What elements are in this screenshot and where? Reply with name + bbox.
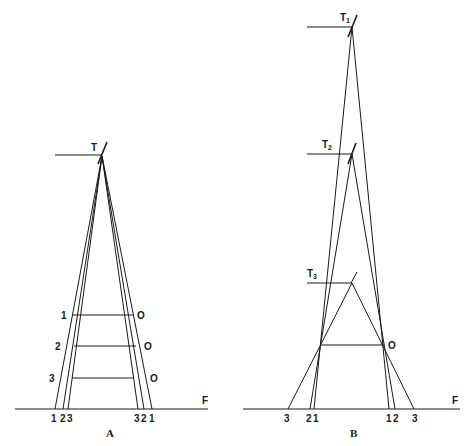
right-label-a-2: O	[144, 341, 152, 352]
ray-b-t1-right	[352, 27, 389, 409]
ground-left-b-1: 1	[313, 413, 319, 424]
ground-right-a-1: 1	[149, 413, 155, 424]
ground-right-b-2: 2	[393, 413, 399, 424]
ground-right-b-1: 1	[386, 413, 392, 424]
left-label-a-3: 3	[49, 373, 55, 384]
ground-right-a-2: 2	[141, 413, 147, 424]
panel-a: T 1 2 3 O O O 1 2 3 3 2 1 F A	[15, 142, 208, 439]
object-label-b: O	[388, 340, 396, 351]
ray-a-l2	[63, 156, 102, 409]
caption-a: A	[106, 427, 114, 439]
ground-left-a-1: 1	[51, 413, 57, 424]
left-label-a-2: 2	[55, 341, 61, 352]
ground-left-a-3: 3	[67, 413, 73, 424]
diagram-canvas: T 1 2 3 O O O 1 2 3 3 2 1 F A	[0, 0, 472, 446]
ray-b-t2-left	[310, 154, 352, 409]
ground-left-a-2: 2	[60, 413, 66, 424]
ray-b-t3-right	[352, 283, 414, 409]
ray-a-r1	[102, 156, 152, 409]
ray-a-l3	[68, 156, 102, 409]
ground-label-a: F	[202, 395, 208, 406]
ground-left-b-2: 2	[306, 413, 312, 424]
apex-label-b-1: T1	[340, 12, 350, 24]
ray-b-t3-left	[288, 283, 352, 409]
ground-right-a-3: 3	[134, 413, 140, 424]
apex-label-b-2: T2	[322, 139, 332, 151]
caption-b: B	[350, 427, 358, 439]
ray-a-r2	[102, 156, 144, 409]
ray-a-r3	[102, 156, 138, 409]
apex-label-a: T	[91, 142, 97, 153]
apex-tick-b-3	[351, 272, 357, 283]
ground-left-b-3: 3	[284, 413, 290, 424]
ray-a-l1	[55, 156, 102, 409]
ground-right-b-3: 3	[412, 413, 418, 424]
ray-b-t2-right	[352, 154, 395, 409]
perspective-diagram: T 1 2 3 O O O 1 2 3 3 2 1 F A	[0, 0, 472, 446]
left-label-a-1: 1	[61, 310, 67, 321]
apex-label-b-3: T3	[307, 268, 317, 280]
right-label-a-3: O	[150, 373, 158, 384]
right-label-a-1: O	[137, 310, 145, 321]
panel-b: T1 T2 T3 O 3 2 1 1 2 3 F B	[243, 12, 460, 439]
ground-label-b: F	[452, 395, 458, 406]
